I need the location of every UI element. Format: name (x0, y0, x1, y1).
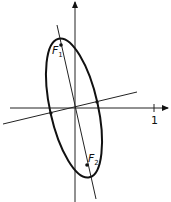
x-tick-label: 1 (151, 114, 158, 127)
ellipse-diagram: 1 F1 F2 (0, 0, 171, 202)
focus-2-label: F2 (88, 152, 99, 167)
minor-vertex-right (95, 100, 98, 103)
focus-1-point (59, 43, 63, 47)
minor-vertex-left (49, 111, 52, 114)
